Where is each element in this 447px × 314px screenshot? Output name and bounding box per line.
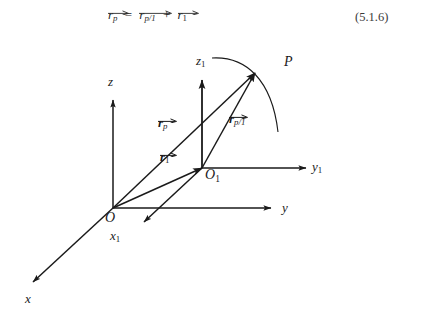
axis-label-x1: x1 bbox=[110, 228, 120, 244]
figure-page: rp = rp/1 + r1 (5.1.6) bbox=[0, 0, 447, 314]
vector-label-rp1: rp/1 bbox=[229, 110, 245, 127]
vector-label-r1-glyph: r1 bbox=[160, 148, 169, 165]
vector-rp-arrow bbox=[113, 73, 255, 208]
vector-arrow-overbar bbox=[160, 145, 171, 150]
vector-label-rp: rp bbox=[158, 114, 167, 131]
axis-label-y: y bbox=[282, 200, 288, 216]
axis-x bbox=[33, 208, 113, 282]
axis-label-x: x bbox=[25, 291, 31, 307]
point-label-P: P bbox=[284, 54, 293, 70]
vector-label-r1: r1 bbox=[160, 148, 169, 165]
vector-arrow-overbar bbox=[229, 107, 247, 112]
origin-label-O1: O1 bbox=[205, 167, 220, 184]
origin-label-O1-base: O bbox=[205, 167, 215, 182]
axis-label-y1: y1 bbox=[312, 159, 322, 175]
vector-diagram bbox=[0, 0, 447, 314]
axis-label-x1-subscript: 1 bbox=[116, 234, 120, 244]
origin-label-O: O bbox=[105, 210, 115, 226]
origin-label-O1-subscript: 1 bbox=[215, 174, 220, 184]
axis-label-y1-subscript: 1 bbox=[318, 165, 322, 175]
vector-arrow-overbar bbox=[158, 111, 169, 116]
vector-label-rp-glyph: rp bbox=[158, 114, 167, 131]
axis-label-z: z bbox=[108, 74, 113, 90]
axis-label-z1-subscript: 1 bbox=[201, 59, 205, 69]
vector-r1-arrow bbox=[113, 168, 202, 208]
axis-x1 bbox=[144, 168, 202, 222]
vector-label-rp1-glyph: rp/1 bbox=[229, 110, 245, 127]
axis-label-z1: z1 bbox=[196, 53, 205, 69]
